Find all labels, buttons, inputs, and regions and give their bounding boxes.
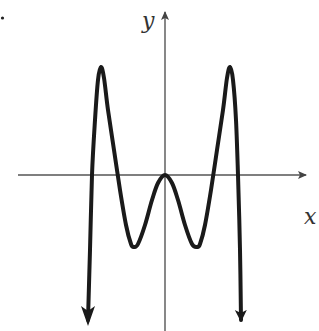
y-axis-label: y <box>141 8 155 33</box>
x-axis-label: x <box>304 204 317 229</box>
polynomial-graph: y x <box>0 0 319 331</box>
stray-dot <box>1 16 4 19</box>
